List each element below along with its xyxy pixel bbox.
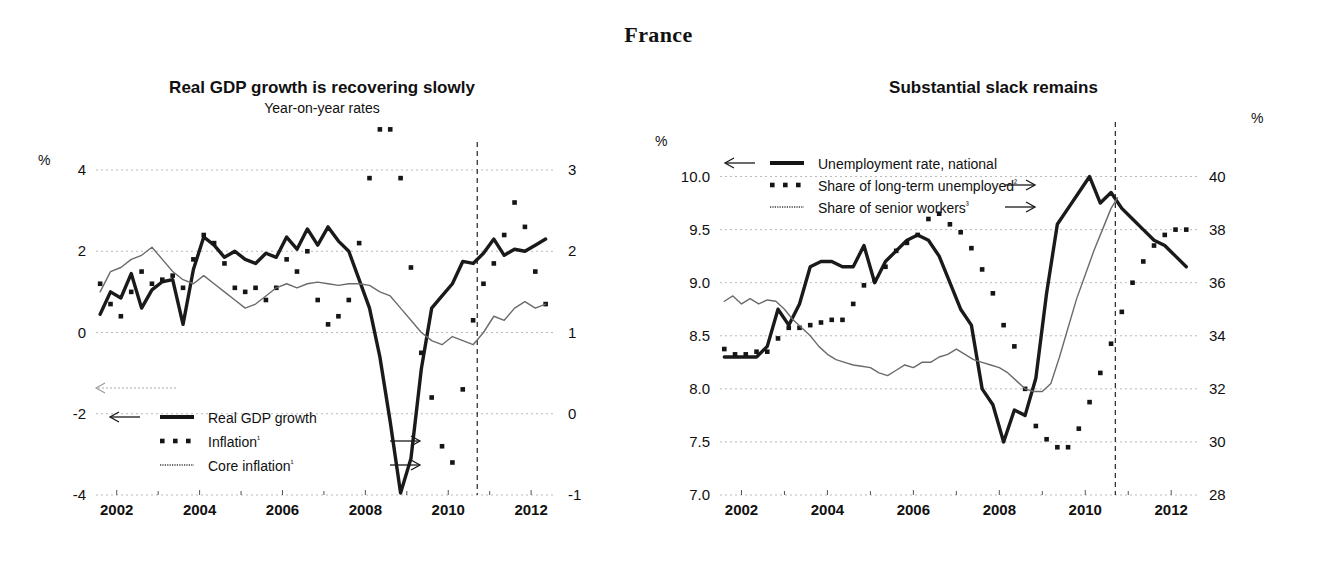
chart-mark bbox=[315, 298, 320, 303]
chart-mark bbox=[243, 290, 248, 295]
chart-mark bbox=[357, 241, 362, 246]
panel-labour-slack: Substantial slack remains % % 7.07.58.08… bbox=[640, 0, 1317, 570]
chart-text: 2 bbox=[78, 242, 86, 259]
chart-text: 2006 bbox=[897, 501, 930, 518]
chart-mark bbox=[100, 247, 546, 345]
chart-mark bbox=[722, 211, 1189, 449]
chart-mark bbox=[733, 352, 738, 357]
chart-mark bbox=[409, 265, 414, 270]
chart-mark bbox=[460, 387, 465, 392]
chart-mark bbox=[1034, 424, 1039, 429]
chart-text: 2008 bbox=[349, 501, 382, 518]
chart-text: 2004 bbox=[183, 501, 217, 518]
chart-mark bbox=[326, 322, 331, 327]
chart-mark bbox=[786, 326, 791, 331]
chart-text: 2008 bbox=[983, 501, 1016, 518]
chart-mark bbox=[829, 318, 834, 323]
chart-mark bbox=[305, 249, 310, 254]
chart-mark bbox=[170, 273, 175, 278]
chart-text: 0 bbox=[568, 405, 576, 422]
legend-label: Unemployment rate, national bbox=[818, 156, 997, 172]
chart-mark bbox=[492, 261, 497, 266]
panel-real-gdp-growth: Real GDP growth is recovering slowly Yea… bbox=[0, 0, 660, 570]
chart-mark bbox=[1162, 233, 1167, 238]
chart-text: 2004 bbox=[811, 501, 845, 518]
chart-mark bbox=[819, 320, 824, 325]
chart-text: 7.5 bbox=[689, 433, 710, 450]
chart-mark bbox=[264, 298, 269, 303]
legend-label: Share of senior workers³ bbox=[818, 200, 969, 216]
chart-mark bbox=[808, 323, 813, 328]
chart-text: 34 bbox=[1209, 327, 1226, 344]
chart-mark bbox=[1098, 371, 1103, 376]
chart-mark bbox=[840, 318, 845, 323]
chart-mark bbox=[980, 267, 985, 272]
chart-mark bbox=[894, 249, 899, 254]
chart-mark bbox=[1077, 426, 1082, 431]
chart-text: 2010 bbox=[1069, 501, 1102, 518]
chart-mark bbox=[119, 314, 124, 319]
chart-mark bbox=[150, 281, 155, 286]
chart-mark bbox=[724, 177, 1186, 442]
chart-text: 8.5 bbox=[689, 327, 710, 344]
chart-mark bbox=[851, 302, 856, 307]
chart-mark bbox=[969, 246, 974, 251]
chart-text: 9.0 bbox=[689, 274, 710, 291]
chart-mark bbox=[1120, 310, 1125, 315]
chart-mark bbox=[378, 127, 383, 132]
chart-mark bbox=[98, 281, 103, 286]
chart-mark bbox=[346, 298, 351, 303]
chart-text: 2 bbox=[568, 242, 576, 259]
chart-mark bbox=[1066, 445, 1071, 450]
chart-mark bbox=[181, 286, 186, 291]
chart-text: 2002 bbox=[725, 501, 758, 518]
chart-mark bbox=[471, 318, 476, 323]
chart-mark bbox=[905, 241, 910, 246]
chart-text: 2006 bbox=[266, 501, 299, 518]
chart-mark bbox=[1130, 280, 1135, 285]
chart-text: 2012 bbox=[514, 501, 547, 518]
chart-mark bbox=[754, 349, 759, 354]
chart-text: -4 bbox=[73, 486, 86, 503]
chart-mark bbox=[253, 286, 258, 291]
chart-mark bbox=[284, 257, 289, 262]
chart-mark bbox=[765, 349, 770, 354]
chart-mark bbox=[1012, 344, 1017, 349]
chart-mark bbox=[1055, 445, 1060, 450]
chart-text: 2010 bbox=[432, 501, 465, 518]
chart-mark bbox=[129, 290, 134, 295]
chart-mark bbox=[722, 347, 727, 352]
chart-text: 8.0 bbox=[689, 380, 710, 397]
chart-mark bbox=[481, 281, 486, 286]
right-chart-plot: 7.07.58.08.59.09.510.0283032343638402002… bbox=[640, 0, 1317, 570]
chart-mark bbox=[139, 269, 144, 274]
chart-mark bbox=[222, 261, 227, 266]
chart-mark bbox=[1001, 323, 1006, 328]
chart-mark bbox=[512, 200, 517, 205]
chart-svg: -4-2024-10123200220042006200820102012Rea… bbox=[0, 0, 660, 570]
legend-label: Real GDP growth bbox=[208, 410, 317, 426]
chart-mark bbox=[450, 460, 455, 465]
chart-text: 1 bbox=[568, 324, 576, 341]
chart-text: 4 bbox=[78, 161, 86, 178]
chart-text: 7.0 bbox=[689, 486, 710, 503]
chart-mark bbox=[862, 283, 867, 288]
chart-mark bbox=[948, 222, 953, 227]
chart-svg: 7.07.58.08.59.09.510.0283032343638402002… bbox=[640, 0, 1317, 570]
chart-mark bbox=[1184, 227, 1189, 232]
chart-mark bbox=[743, 352, 748, 357]
chart-mark bbox=[523, 225, 528, 230]
chart-text: 2002 bbox=[100, 501, 133, 518]
chart-text: 30 bbox=[1209, 433, 1226, 450]
left-chart-plot: -4-2024-10123200220042006200820102012Rea… bbox=[0, 0, 660, 570]
chart-mark bbox=[915, 233, 920, 238]
chart-mark bbox=[295, 269, 300, 274]
chart-mark bbox=[201, 233, 206, 238]
chart-mark bbox=[419, 351, 424, 356]
chart-mark bbox=[776, 336, 781, 341]
chart-mark bbox=[958, 230, 963, 235]
chart-mark bbox=[100, 227, 546, 493]
chart-mark bbox=[1152, 243, 1157, 248]
legend-label: Inflation¹ bbox=[208, 434, 260, 450]
chart-text: 40 bbox=[1209, 168, 1226, 185]
